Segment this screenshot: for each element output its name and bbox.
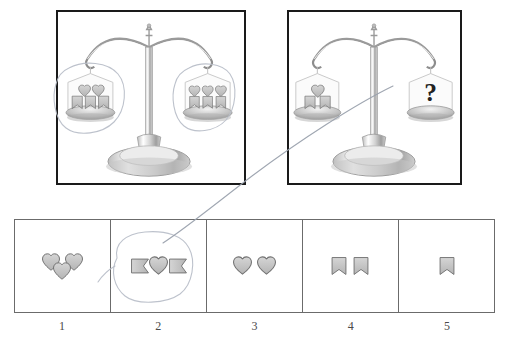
query-balance-scale: ? xyxy=(289,12,460,183)
option-cell-5[interactable] xyxy=(399,220,494,312)
answer-options xyxy=(14,219,495,313)
given-left-pan xyxy=(66,67,115,122)
option-4-shapes xyxy=(326,253,376,279)
query-balance-panel: ? xyxy=(287,10,462,185)
option-label-1: 1 xyxy=(14,316,110,340)
option-number-labels: 1 2 3 4 5 xyxy=(14,316,495,340)
query-right-pan: ? xyxy=(407,67,454,122)
option-cell-4[interactable] xyxy=(303,220,399,312)
option-cell-1[interactable] xyxy=(15,220,111,312)
given-balance-panel xyxy=(56,10,246,185)
option-label-4: 4 xyxy=(303,316,399,340)
given-right-pan xyxy=(183,67,232,122)
given-balance-scale xyxy=(58,12,244,183)
option-cell-2[interactable] xyxy=(111,220,207,312)
query-left-pan xyxy=(294,67,341,122)
puzzle-stage: ? xyxy=(0,0,509,349)
question-mark: ? xyxy=(424,78,437,106)
option-label-2: 2 xyxy=(110,316,206,340)
option-cell-3[interactable] xyxy=(207,220,303,312)
option-1-shapes xyxy=(33,249,93,283)
option-label-5: 5 xyxy=(399,316,495,340)
option-label-3: 3 xyxy=(206,316,302,340)
option-5-shapes xyxy=(433,253,461,279)
option-3-shapes xyxy=(228,253,282,279)
option-2-shapes xyxy=(126,251,192,281)
